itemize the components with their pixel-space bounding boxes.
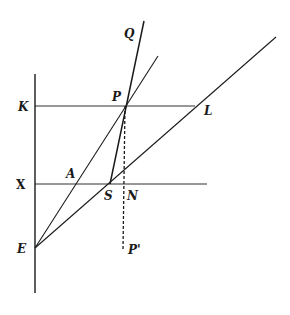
label-P-prime: P' (127, 243, 141, 257)
label-K: K (17, 100, 29, 114)
dashed-line-PP-prime (123, 106, 125, 250)
line-ESL (35, 37, 276, 248)
label-N: N (126, 189, 139, 203)
label-E: E (16, 242, 27, 256)
geometry-diagram: Q P K L X A S N E P' (0, 0, 290, 315)
label-X: X (16, 178, 26, 192)
label-A: A (65, 167, 75, 181)
line-EAP (35, 56, 158, 248)
label-S: S (104, 189, 113, 203)
label-L: L (203, 104, 212, 118)
label-Q: Q (124, 27, 135, 41)
label-P: P (111, 90, 122, 104)
